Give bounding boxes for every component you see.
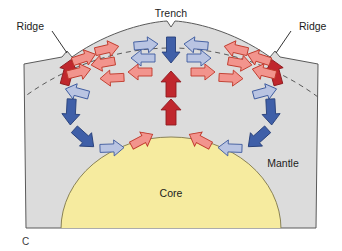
label-panel-letter: C	[22, 236, 29, 247]
label-mantle: Mantle	[267, 157, 299, 169]
figure-container: Trench Ridge Ridge Mantle Core C	[0, 0, 342, 251]
label-ridge-left: Ridge	[17, 20, 45, 32]
mantle-convection-diagram: Trench Ridge Ridge Mantle Core C	[0, 0, 342, 251]
label-trench: Trench	[155, 7, 187, 19]
label-core: Core	[160, 187, 183, 199]
ridge-right-leader-line	[276, 31, 291, 53]
ridge-left-leader-line	[52, 31, 67, 53]
label-ridge-right: Ridge	[299, 20, 327, 32]
